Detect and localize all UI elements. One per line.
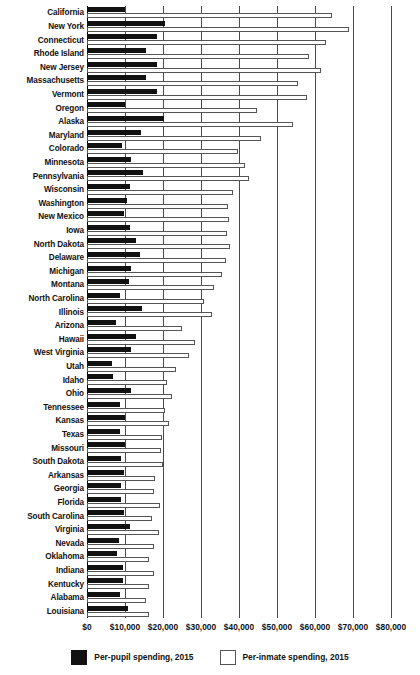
legend-item-inmate: Per-inmate spending, 2015 xyxy=(220,650,349,665)
bar-pupil xyxy=(87,551,117,556)
category-label-virginia: Virginia xyxy=(0,525,84,534)
bar-group xyxy=(87,224,391,238)
bar-inmate xyxy=(87,231,227,236)
category-label-oregon: Oregon xyxy=(0,104,84,113)
bar-inmate xyxy=(87,462,163,467)
bar-pupil xyxy=(87,524,130,529)
xtick-label-60000: $60,000 xyxy=(300,622,330,632)
bar-pupil xyxy=(87,470,124,475)
bar-inmate xyxy=(87,40,326,45)
category-label-new-jersey: New Jersey xyxy=(0,63,84,72)
bar-group xyxy=(87,400,391,414)
category-label-rhode-island: Rhode Island xyxy=(0,49,84,58)
bar-inmate xyxy=(87,312,212,317)
bar-pupil xyxy=(87,442,125,447)
bar-pupil xyxy=(87,157,131,162)
category-label-michigan: Michigan xyxy=(0,267,84,276)
category-label-maryland: Maryland xyxy=(0,131,84,140)
bar-group xyxy=(87,305,391,319)
bar-group xyxy=(87,101,391,115)
legend-swatch-inmate-icon xyxy=(220,650,236,665)
bar-pupil xyxy=(87,320,116,325)
bar-group xyxy=(87,482,391,496)
bar-inmate xyxy=(87,272,222,277)
bar-inmate xyxy=(87,244,230,249)
bar-inmate xyxy=(87,299,204,304)
bar-group xyxy=(87,523,391,537)
bar-inmate xyxy=(87,408,165,413)
bar-group xyxy=(87,88,391,102)
bar-group xyxy=(87,33,391,47)
xtick-label-80000: $80,000 xyxy=(376,622,406,632)
bar-pupil xyxy=(87,143,122,148)
bar-pupil xyxy=(87,7,125,12)
bar-rows xyxy=(87,6,391,618)
bar-group xyxy=(87,387,391,401)
bar-inmate xyxy=(87,285,214,290)
bar-group xyxy=(87,251,391,265)
category-label-connecticut: Connecticut xyxy=(0,36,84,45)
xtick-label-20000: $20,000 xyxy=(148,622,178,632)
bar-inmate xyxy=(87,353,189,358)
bar-pupil xyxy=(87,456,121,461)
bar-pupil xyxy=(87,238,136,243)
bar-pupil xyxy=(87,89,157,94)
category-label-tennessee: Tennessee xyxy=(0,403,84,412)
chart-legend: Per-pupil spending, 2015 Per-inmate spen… xyxy=(0,645,420,669)
value-axis-ticks: $0$10,000$20,000$30,000$40,000$50,000$60… xyxy=(0,622,420,638)
bar-inmate xyxy=(87,367,176,372)
bar-group xyxy=(87,577,391,591)
bar-inmate xyxy=(87,571,154,576)
bar-pupil xyxy=(87,483,121,488)
category-label-washington: Washington xyxy=(0,199,84,208)
bar-group xyxy=(87,414,391,428)
bar-pupil xyxy=(87,606,128,611)
xtick-label-0: $0 xyxy=(82,622,91,632)
bar-inmate xyxy=(87,612,149,617)
category-label-arizona: Arizona xyxy=(0,321,84,330)
bar-group xyxy=(87,455,391,469)
bar-inmate xyxy=(87,81,298,86)
category-label-alabama: Alabama xyxy=(0,593,84,602)
bar-group xyxy=(87,74,391,88)
bar-group xyxy=(87,264,391,278)
xtick-label-50000: $50,000 xyxy=(262,622,292,632)
bar-inmate xyxy=(87,95,307,100)
bar-inmate xyxy=(87,68,321,73)
xtick-label-30000: $30,000 xyxy=(186,622,216,632)
bar-pupil xyxy=(87,279,129,284)
bar-pupil xyxy=(87,415,125,420)
bar-pupil xyxy=(87,402,120,407)
bar-inmate xyxy=(87,258,226,263)
bar-inmate xyxy=(87,584,149,589)
category-label-nevada: Nevada xyxy=(0,539,84,548)
bar-group xyxy=(87,536,391,550)
category-label-pennsylvania: Pennsylvania xyxy=(0,172,84,181)
bar-pupil xyxy=(87,592,120,597)
bar-group xyxy=(87,332,391,346)
bar-pupil xyxy=(87,170,143,175)
bar-group xyxy=(87,468,391,482)
bar-inmate xyxy=(87,516,152,521)
bar-group xyxy=(87,60,391,74)
bar-inmate xyxy=(87,448,161,453)
xtick-label-10000: $10,000 xyxy=(110,622,140,632)
bar-inmate xyxy=(87,13,332,18)
bar-inmate xyxy=(87,380,167,385)
legend-label-inmate: Per-inmate spending, 2015 xyxy=(243,652,349,662)
category-label-georgia: Georgia xyxy=(0,484,84,493)
bar-inmate xyxy=(87,503,160,508)
category-label-vermont: Vermont xyxy=(0,90,84,99)
bar-group xyxy=(87,441,391,455)
bar-inmate xyxy=(87,136,261,141)
category-label-illinois: Illinois xyxy=(0,308,84,317)
bar-pupil xyxy=(87,306,142,311)
category-label-colorado: Colorado xyxy=(0,144,84,153)
bar-inmate xyxy=(87,326,182,331)
bar-group xyxy=(87,128,391,142)
bar-group xyxy=(87,564,391,578)
bar-inmate xyxy=(87,489,154,494)
bar-pupil xyxy=(87,266,131,271)
category-label-kentucky: Kentucky xyxy=(0,580,84,589)
bar-pupil xyxy=(87,198,127,203)
